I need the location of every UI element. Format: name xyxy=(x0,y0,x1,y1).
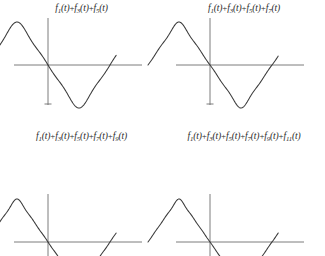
panel-3-svg xyxy=(0,128,163,256)
panel-1: f1(t)+f3(t)+f5(t) xyxy=(0,0,163,128)
panel-3: f1(t)+f3(t)+f5(t)+f7(t)+f9(t) xyxy=(0,128,163,256)
panel-4-svg xyxy=(163,128,325,256)
panel-2: f1(t)+f3(t)+f5(t)+f7(t) xyxy=(163,0,325,128)
panel-1-plot xyxy=(0,0,163,128)
waveform-curve xyxy=(148,199,278,256)
panel-4: f1(t)+f3(t)+f5(t)+f7(t)+f9(t)+f11(t) xyxy=(163,128,325,256)
figure-grid: f1(t)+f3(t)+f5(t) f1(t)+f3(t)+f5(t)+f7(t… xyxy=(0,0,325,256)
panel-4-plot xyxy=(163,128,325,256)
panel-3-plot xyxy=(0,128,163,256)
panel-1-svg xyxy=(0,0,163,128)
waveform-curve xyxy=(0,199,116,256)
panel-2-plot xyxy=(163,0,325,128)
panel-2-svg xyxy=(163,0,325,128)
